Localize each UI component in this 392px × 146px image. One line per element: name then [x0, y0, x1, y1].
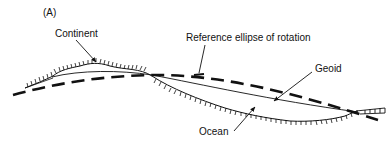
- reference-ellipse-label: Reference ellipse of rotation: [186, 33, 311, 43]
- left-continent-stub: [25, 78, 53, 88]
- reference-ellipse-leader: [199, 45, 205, 73]
- geoid-label: Geoid: [315, 64, 342, 74]
- geoid-arrow: [274, 72, 312, 101]
- continent-label: Continent: [55, 29, 98, 39]
- continent-arrow: [76, 40, 96, 62]
- earth-surface-curve: [25, 63, 358, 121]
- ocean-arrow: [234, 107, 255, 131]
- reference-ellipse-tick: [194, 74, 204, 75]
- panel-label: (A): [43, 8, 56, 18]
- figure-canvas: (A) Continent Reference ellipse of rotat…: [0, 0, 392, 146]
- ocean-label: Ocean: [199, 127, 228, 137]
- right-continent-stub: [356, 108, 385, 114]
